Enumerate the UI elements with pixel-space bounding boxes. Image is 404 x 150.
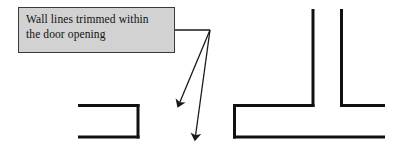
leader-line-group — [175, 30, 210, 136]
wall-opening-left — [78, 104, 140, 139]
wall-door-opening-diagram: Wall lines trimmed within the door openi… — [0, 0, 404, 150]
callout-label: Wall lines trimmed within the door openi… — [26, 12, 172, 42]
wall-tee-junction — [233, 9, 385, 139]
